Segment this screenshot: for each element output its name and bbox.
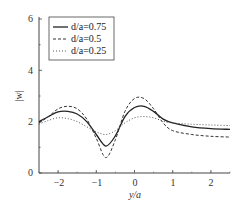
xtick-0: 0 bbox=[133, 177, 138, 188]
series-lines bbox=[39, 97, 230, 157]
legend-label-0: d/a=0.75 bbox=[71, 21, 106, 32]
series-line-0 bbox=[39, 106, 230, 146]
xtick-neg2: −2 bbox=[54, 177, 65, 188]
xtick-neg1: −1 bbox=[92, 177, 103, 188]
series-line-2 bbox=[39, 117, 230, 135]
x-axis-label: y/a bbox=[128, 189, 141, 200]
chart: 0 2 4 6 −2 −1 0 1 2 y/a |w| d/a=0.75 d/a… bbox=[0, 0, 243, 203]
legend: d/a=0.75 d/a=0.5 d/a=0.25 bbox=[49, 17, 114, 60]
xtick-1: 1 bbox=[171, 177, 176, 188]
ytick-0: 0 bbox=[28, 167, 33, 178]
ytick-6: 6 bbox=[28, 13, 33, 24]
legend-label-1: d/a=0.5 bbox=[71, 33, 101, 44]
ytick-4: 4 bbox=[28, 65, 33, 76]
legend-label-2: d/a=0.25 bbox=[71, 45, 106, 56]
ytick-2: 2 bbox=[28, 116, 33, 127]
y-axis-label: |w| bbox=[13, 90, 24, 101]
xtick-2: 2 bbox=[209, 177, 214, 188]
